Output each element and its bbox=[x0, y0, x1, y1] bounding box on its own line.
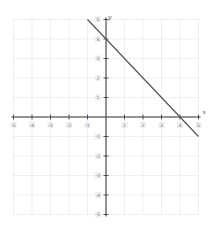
axes bbox=[12, 18, 201, 217]
y-tick-label: 3 bbox=[97, 56, 100, 61]
x-tick-label: -1 bbox=[85, 123, 90, 128]
x-axis-label: x bbox=[203, 108, 207, 115]
y-tick-label: 1 bbox=[97, 95, 100, 100]
y-tick-label: 2 bbox=[97, 76, 100, 81]
y-tick-label: -5 bbox=[96, 212, 101, 217]
y-tick-label: -2 bbox=[96, 154, 101, 159]
x-tick-label: -4 bbox=[30, 123, 35, 128]
x-tick-label: -3 bbox=[48, 123, 53, 128]
x-tick-label: 3 bbox=[160, 123, 163, 128]
x-tick-label: -5 bbox=[11, 123, 16, 128]
y-tick-label: -3 bbox=[96, 173, 101, 178]
y-axis-label: y bbox=[107, 13, 112, 21]
x-tick-label: 2 bbox=[142, 123, 145, 128]
y-tick-label: -4 bbox=[96, 193, 101, 198]
x-tick-label: 4 bbox=[179, 123, 182, 128]
y-tick-label: -1 bbox=[96, 134, 101, 139]
x-tick-label: 5 bbox=[197, 123, 200, 128]
y-tick-label: 4 bbox=[97, 37, 100, 42]
y-tick-label: 5 bbox=[97, 17, 100, 22]
coordinate-plane: -5-4-3-2-11234554321-1-2-3-4-5 x y bbox=[0, 0, 215, 230]
x-tick-label: -2 bbox=[67, 123, 72, 128]
x-tick-label: 1 bbox=[123, 123, 126, 128]
